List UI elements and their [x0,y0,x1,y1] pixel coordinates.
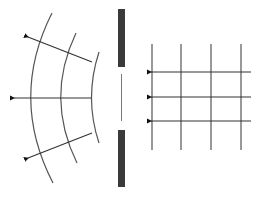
diffracted-rays [14,37,92,158]
barrier-top-segment [118,9,125,67]
barrier-bottom-segment [118,130,125,187]
barrier [118,9,125,187]
diffracted-wavefront-inner [92,52,100,143]
incident-rays [151,72,251,121]
diffraction-diagram [0,0,261,198]
